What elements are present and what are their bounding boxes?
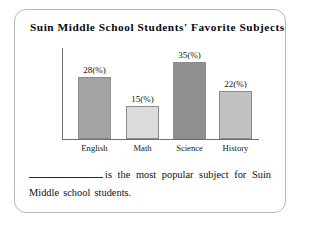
x-axis-labels: English Math Science History [47, 140, 263, 154]
x-label-history: History [209, 143, 262, 153]
bar-science[interactable] [173, 62, 206, 139]
bar-value-history: 22(%) [210, 79, 261, 89]
y-axis-line [62, 48, 63, 140]
x-label-math: Math [116, 143, 169, 153]
bar-history[interactable] [219, 91, 252, 139]
bar-english[interactable] [78, 77, 111, 139]
answer-blank[interactable] [29, 166, 103, 178]
bar-chart: 28(%) 15(%) 35(%) 22(%) English Math Sci… [47, 40, 263, 165]
question-sentence: is the most popular subject for Suin Mid… [29, 166, 271, 202]
bar-math[interactable] [126, 106, 159, 139]
chart-title: Suin Middle School Students' Favorite Su… [30, 21, 272, 33]
bar-value-english: 28(%) [69, 65, 120, 75]
bar-value-math: 15(%) [117, 94, 168, 104]
x-label-english: English [68, 143, 121, 153]
bar-value-science: 35(%) [164, 50, 215, 60]
